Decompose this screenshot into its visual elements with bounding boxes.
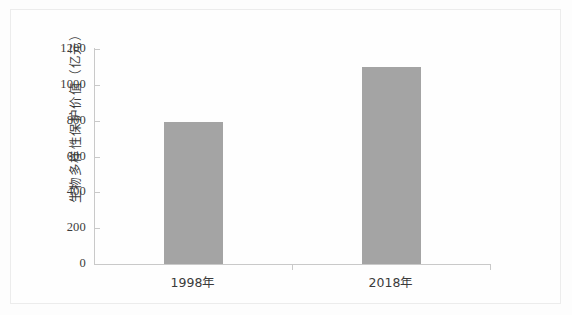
bar-2018年 [362, 67, 421, 264]
x-tick-label: 1998年 [143, 272, 243, 291]
x-tick-label: 2018年 [341, 272, 441, 291]
y-tick-mark [94, 192, 100, 193]
y-tick-mark [94, 85, 100, 86]
y-tick-mark [94, 228, 100, 229]
y-tick-mark [94, 49, 100, 50]
bar-1998年 [164, 122, 223, 264]
y-tick-mark [94, 157, 100, 158]
y-tick-mark [94, 121, 100, 122]
chart-page: 生物多样性保护价值（亿元） 120010008006004002000 1998… [0, 0, 572, 315]
x-tick-mark [490, 264, 491, 270]
y-tick-label: 600 [40, 149, 86, 164]
y-tick-mark [94, 264, 100, 265]
figure-frame [10, 9, 561, 304]
y-tick-label: 800 [40, 113, 86, 128]
y-tick-label: 1200 [40, 41, 86, 56]
y-tick-label: 200 [40, 220, 86, 235]
y-tick-label: 400 [40, 184, 86, 199]
y-tick-label: 1000 [40, 77, 86, 92]
y-tick-label: 0 [40, 256, 86, 271]
x-tick-mark [292, 264, 293, 270]
